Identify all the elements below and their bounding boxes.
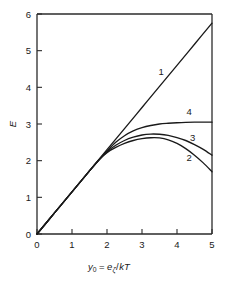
axis-left-bottom — [37, 14, 212, 234]
curve-label-2: 2 — [187, 152, 192, 163]
svg-text:y0=eζ/kT: y0=eζ/kT — [87, 261, 131, 274]
y-axis-tick-labels: 0 1 2 3 4 5 6 — [26, 9, 31, 240]
x-title-denominator: kT — [119, 261, 131, 272]
y-tick-label-4: 4 — [26, 82, 31, 93]
plot-frame — [37, 14, 212, 234]
y-tick-label-0: 0 — [26, 229, 31, 240]
y-tick-label-2: 2 — [26, 155, 31, 166]
curve-label-1: 1 — [159, 66, 164, 77]
y-tick-label-5: 5 — [26, 45, 31, 56]
x-title-equals: = — [99, 261, 105, 272]
x-tick-label-4: 4 — [174, 239, 179, 250]
x-tick-label-5: 5 — [209, 239, 214, 250]
curve-label-3: 3 — [190, 132, 195, 143]
x-axis-ticks — [37, 229, 212, 234]
y-tick-label-6: 6 — [26, 9, 31, 20]
x-title-var-sub: 0 — [93, 266, 97, 273]
y-axis-ticks — [37, 14, 42, 234]
curve-4 — [37, 122, 212, 234]
x-tick-label-1: 1 — [69, 239, 74, 250]
y-tick-label-3: 3 — [26, 119, 31, 130]
x-axis-title: y0=eζ/kT — [87, 261, 131, 274]
x-tick-label-0: 0 — [34, 239, 39, 250]
y-axis-title: E — [7, 120, 18, 127]
x-axis-tick-labels: 0 1 2 3 4 5 — [34, 239, 214, 250]
line-chart-svg: 0 1 2 3 4 5 6 0 1 2 3 4 5 E y0=eζ/kT 1 — [0, 0, 238, 283]
chart-figure: 0 1 2 3 4 5 6 0 1 2 3 4 5 E y0=eζ/kT 1 — [0, 0, 238, 283]
x-tick-label-2: 2 — [104, 239, 109, 250]
x-tick-label-3: 3 — [139, 239, 144, 250]
data-curves — [37, 23, 212, 234]
curve-label-4: 4 — [187, 106, 192, 117]
y-tick-label-1: 1 — [26, 192, 31, 203]
